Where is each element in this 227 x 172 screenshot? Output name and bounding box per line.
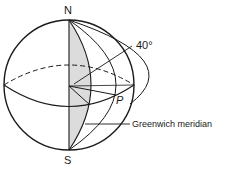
north-label: N bbox=[64, 4, 72, 16]
globe-diagram: N S P 40° Greenwich meridian bbox=[0, 0, 227, 172]
point-p-label: P bbox=[116, 94, 124, 106]
greenwich-meridian-label: Greenwich meridian bbox=[132, 119, 212, 129]
south-label: S bbox=[64, 154, 71, 166]
angle-label: 40° bbox=[136, 39, 153, 51]
